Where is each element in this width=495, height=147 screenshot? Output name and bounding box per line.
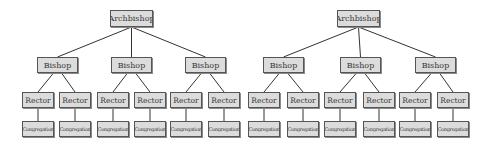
congregation-box-label: Congregation (208, 126, 239, 132)
rector-box-label: Rector (402, 96, 427, 105)
congregation-box-label: Congregation (22, 126, 53, 132)
rector-box: Rector (324, 92, 356, 108)
archbishop-box: Archbishop (337, 10, 380, 27)
bishop-box-label: Bishop (270, 61, 298, 70)
congregation-box: Congregation (22, 121, 54, 137)
congregation-box: Congregation (170, 121, 202, 137)
rector-box-label: Rector (62, 96, 87, 105)
rector-box: Rector (59, 92, 91, 108)
congregation-box: Congregation (59, 121, 91, 137)
rector-box-label: Rector (366, 96, 391, 105)
rector-box: Rector (208, 92, 240, 108)
rector-box: Rector (22, 92, 54, 108)
connector-line (58, 27, 132, 57)
congregation-box-label: Congregation (170, 126, 201, 132)
connector-line (264, 73, 280, 92)
archbishop-box-label: Archbishop (337, 14, 380, 23)
bishop-box-label: Bishop (44, 61, 72, 70)
rector-box: Rector (134, 92, 166, 108)
bishop-box-label: Bishop (422, 61, 450, 70)
bishop-box: Bishop (111, 57, 152, 73)
congregation-box: Congregation (437, 121, 469, 137)
connector-line (38, 73, 54, 92)
congregation-box-label: Congregation (287, 126, 318, 132)
rector-box-label: Rector (440, 96, 465, 105)
bishop-box: Bishop (37, 57, 78, 73)
congregation-box: Congregation (248, 121, 280, 137)
rector-box-label: Rector (137, 96, 162, 105)
congregation-box: Congregation (208, 121, 240, 137)
bishop-box-label: Bishop (118, 61, 146, 70)
rector-box: Rector (170, 92, 202, 108)
bishop-box-label: Bishop (192, 61, 220, 70)
archbishop-box-label: Archbishop (110, 14, 153, 23)
bishop-box: Bishop (263, 57, 304, 73)
congregation-box: Congregation (324, 121, 356, 137)
rector-box: Rector (399, 92, 431, 108)
rector-box-label: Rector (251, 96, 276, 105)
congregation-box-label: Congregation (324, 126, 355, 132)
congregation-box-label: Congregation (437, 126, 468, 132)
congregation-box-label: Congregation (363, 126, 394, 132)
congregation-box-label: Congregation (59, 126, 90, 132)
congregation-box: Congregation (97, 121, 129, 137)
bishop-box: Bishop (185, 57, 226, 73)
congregation-box-label: Congregation (399, 126, 430, 132)
connector-line (186, 73, 202, 92)
connector-line (284, 27, 359, 57)
bishop-box: Bishop (415, 57, 456, 73)
congregation-box: Congregation (287, 121, 319, 137)
connector-line (210, 73, 225, 92)
rector-box-label: Rector (173, 96, 198, 105)
archbishop-box: Archbishop (110, 10, 153, 27)
bishop-box-label: Bishop (347, 61, 375, 70)
rector-box-label: Rector (211, 96, 236, 105)
connector-line (62, 73, 76, 92)
congregation-box: Congregation (134, 121, 166, 137)
connector-line (132, 27, 206, 57)
congregation-box-label: Congregation (134, 126, 165, 132)
rector-box-label: Rector (327, 96, 352, 105)
rector-box: Rector (363, 92, 395, 108)
connector-line (415, 73, 432, 92)
rector-box-label: Rector (290, 96, 315, 105)
connector-line (359, 27, 361, 57)
rector-box-label: Rector (100, 96, 125, 105)
congregation-box-label: Congregation (97, 126, 128, 132)
congregation-box-label: Congregation (248, 126, 279, 132)
connector-line (136, 73, 151, 92)
connector-line (359, 27, 436, 57)
connector-line (340, 73, 357, 92)
rector-box: Rector (248, 92, 280, 108)
congregation-box: Congregation (399, 121, 431, 137)
rector-box: Rector (97, 92, 129, 108)
congregation-box: Congregation (363, 121, 395, 137)
bishop-box: Bishop (340, 57, 381, 73)
connector-line (440, 73, 454, 92)
connector-line (113, 73, 128, 92)
rector-box: Rector (437, 92, 469, 108)
rector-box: Rector (287, 92, 319, 108)
hierarchy-diagram: ArchbishopBishopRectorCongregationRector… (0, 0, 495, 147)
rector-box-label: Rector (25, 96, 50, 105)
connector-line (288, 73, 304, 92)
connector-line (365, 73, 380, 92)
